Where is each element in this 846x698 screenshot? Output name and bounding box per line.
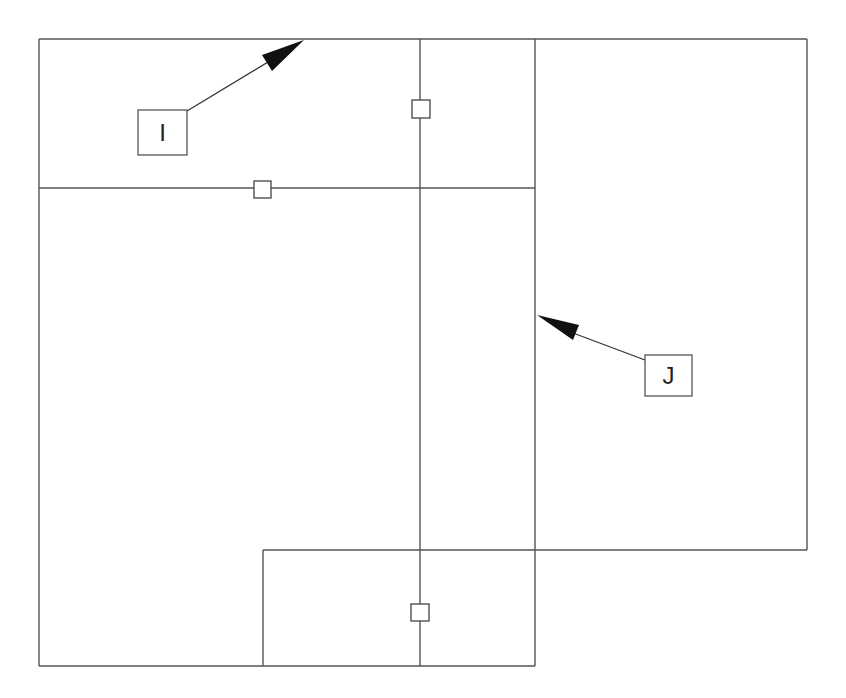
label-j-callout: J: [537, 315, 692, 396]
diagram-canvas: I J: [0, 0, 846, 698]
label-i-callout: I: [138, 40, 304, 155]
label-j-text: J: [663, 362, 675, 389]
arrow-line: [187, 56, 278, 111]
marker-square-icon: [411, 604, 429, 621]
arrow-head-icon: [262, 40, 304, 71]
arrow-head-icon: [537, 315, 579, 340]
marker-square-icon: [254, 181, 271, 198]
arrow-line: [565, 330, 645, 360]
label-i-text: I: [159, 119, 166, 146]
markers: [254, 100, 430, 621]
marker-square-icon: [412, 100, 430, 118]
